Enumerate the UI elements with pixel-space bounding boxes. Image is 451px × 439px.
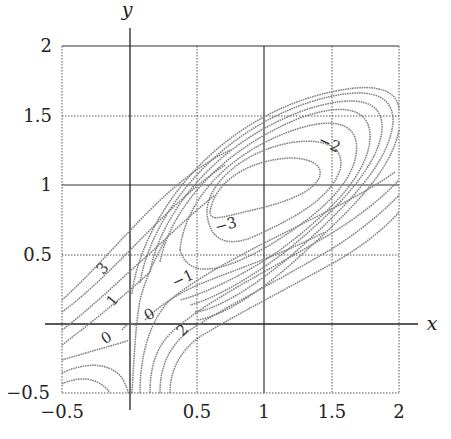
x-axis-label: x [427, 312, 438, 334]
x-tick-label: 0.5 [183, 401, 212, 422]
contours [62, 88, 399, 393]
contour-label: 3 [92, 259, 112, 278]
y-tick-label: 1.5 [23, 105, 52, 126]
y-axis-label: y [121, 0, 133, 20]
x-tick-labels: −0.5 0.5 1 1.5 2 [40, 401, 405, 422]
x-tick-label: −0.5 [40, 401, 84, 422]
contour-label: −3 [213, 213, 239, 236]
y-tick-label: 0.5 [23, 244, 52, 265]
contour-label: 0 [141, 304, 158, 324]
y-tick-label: −0.5 [6, 382, 50, 403]
x-tick-label: 1 [258, 401, 269, 422]
contour-label: 1 [102, 291, 122, 310]
x-tick-label: 2 [393, 401, 404, 422]
y-tick-labels: 2 1.5 1 0.5 −0.5 [6, 35, 52, 403]
contour-plot: 3 1 0 0 −1 −3 −2 2 2 1.5 1 0.5 −0.5 −0.5… [0, 0, 451, 439]
y-tick-label: 1 [41, 174, 52, 195]
contour-label: 0 [98, 328, 115, 348]
y-tick-label: 2 [41, 35, 52, 56]
contour-label: −2 [316, 131, 344, 157]
x-tick-label: 1.5 [318, 401, 347, 422]
